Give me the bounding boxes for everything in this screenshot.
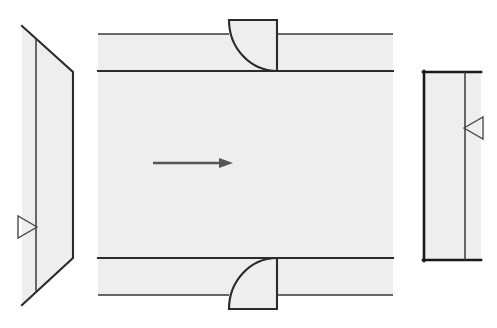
left-view-face [22, 26, 73, 305]
front-section-view [98, 20, 393, 309]
web-body-face [98, 71, 393, 259]
right-view-face [424, 72, 481, 260]
right-side-view [423, 71, 481, 261]
engineering-drawing-canvas [0, 0, 497, 328]
drawing-svg-root [0, 0, 497, 328]
left-side-view [22, 26, 73, 305]
